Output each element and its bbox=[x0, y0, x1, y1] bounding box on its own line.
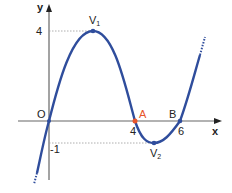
y-axis-arrow-icon bbox=[46, 4, 52, 12]
x-tick-6: 6 bbox=[178, 126, 184, 137]
y-tick-4: 4 bbox=[36, 26, 42, 37]
x-tick-4: 4 bbox=[130, 126, 136, 137]
label-b: B bbox=[169, 109, 176, 120]
x-axis-label: x bbox=[212, 126, 218, 137]
x-axis-arrow-icon bbox=[214, 118, 222, 124]
curve-continuation-top bbox=[200, 37, 205, 55]
graph: y x O 4 -1 4 6 V1 V2 A B bbox=[0, 0, 232, 193]
point-b bbox=[178, 119, 183, 124]
point-v1 bbox=[91, 29, 96, 34]
point-a bbox=[133, 119, 138, 124]
label-a: A bbox=[139, 109, 146, 120]
curve-continuation-bottom bbox=[34, 173, 37, 184]
graph-canvas bbox=[0, 0, 232, 193]
label-v2: V2 bbox=[150, 148, 161, 160]
origin-label: O bbox=[37, 109, 46, 120]
y-tick-neg1: -1 bbox=[50, 144, 60, 155]
label-v1-sub: 1 bbox=[96, 20, 100, 27]
y-axis-label: y bbox=[37, 2, 43, 13]
label-v1: V1 bbox=[89, 15, 100, 27]
label-v2-sub: 2 bbox=[157, 153, 161, 160]
point-v2 bbox=[152, 141, 157, 146]
function-curve bbox=[37, 31, 200, 173]
point-origin bbox=[47, 119, 51, 123]
